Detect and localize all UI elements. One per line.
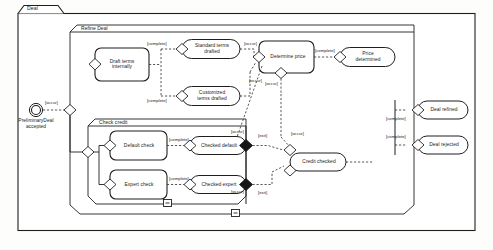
diagram-canvas: Deal Refine Deal Check credit Preliminar… [0, 0, 493, 250]
state-checked-expert[interactable] [184, 176, 246, 194]
state-deal-refined[interactable] [412, 101, 468, 119]
state-standard-terms-drafted[interactable] [176, 40, 240, 59]
state-checked-default[interactable] [184, 137, 246, 155]
action-default-check[interactable] [104, 131, 167, 160]
action-draft-terms-internally[interactable] [89, 48, 149, 81]
collapse-toggle-check-credit[interactable] [164, 200, 172, 207]
entry-point-preliminary-deal[interactable] [29, 103, 42, 116]
state-customized-terms-drafted[interactable] [176, 87, 240, 106]
collapse-toggle-refine-deal[interactable] [232, 210, 240, 217]
action-expert-check[interactable] [104, 170, 167, 199]
state-deal-rejected[interactable] [412, 136, 468, 154]
diagram-graphics [0, 0, 493, 250]
action-determine-price[interactable] [253, 41, 314, 79]
state-price-determined[interactable] [334, 48, 395, 67]
